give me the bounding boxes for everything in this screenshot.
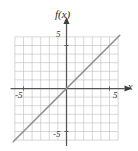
y-axis-label: f(x) <box>55 9 70 20</box>
coordinate-plane-figure: f(x) x 5 -5 -5 5 <box>0 0 138 151</box>
x-axis-tick-label-positive: 5 <box>113 91 118 100</box>
y-axis-tick-label-positive: 5 <box>56 30 61 39</box>
x-axis-tick-label-negative: -5 <box>15 91 23 100</box>
x-axis-label: x <box>128 82 132 92</box>
y-axis-tick-label-negative: -5 <box>53 130 61 139</box>
graph-canvas <box>0 0 138 151</box>
y-axis <box>63 17 69 146</box>
